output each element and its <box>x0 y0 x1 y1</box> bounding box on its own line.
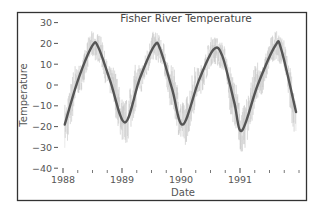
x-tick-label: 1989 <box>110 174 134 185</box>
y-tick-label: 30 <box>40 17 52 28</box>
y-tick-label: −10 <box>32 100 52 111</box>
figure-frame <box>18 13 307 201</box>
y-axis-label: Temperature <box>18 63 29 127</box>
y-tick-label: −40 <box>32 163 52 174</box>
x-tick-label: 1988 <box>51 174 75 185</box>
temperature-chart: Fisher River Temperature 3020100−10−20−3… <box>0 0 324 213</box>
chart-title: Fisher River Temperature <box>120 12 252 24</box>
x-tick-label: 1991 <box>228 174 252 185</box>
x-tick-label: 1990 <box>169 174 193 185</box>
y-tick-label: 0 <box>46 80 52 91</box>
y-tick-label: 10 <box>40 59 52 70</box>
y-tick-label: −30 <box>32 142 52 153</box>
y-tick-label: 20 <box>40 38 52 49</box>
x-axis-label: Date <box>171 187 195 198</box>
y-tick-label: −20 <box>32 121 52 132</box>
